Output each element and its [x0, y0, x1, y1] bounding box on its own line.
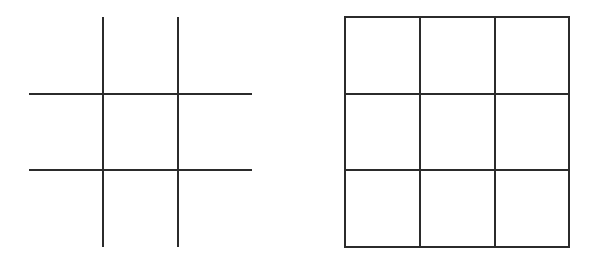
diagram-canvas [0, 0, 599, 261]
grid-border [345, 17, 569, 247]
open-grid [29, 17, 252, 247]
closed-grid [345, 17, 569, 247]
